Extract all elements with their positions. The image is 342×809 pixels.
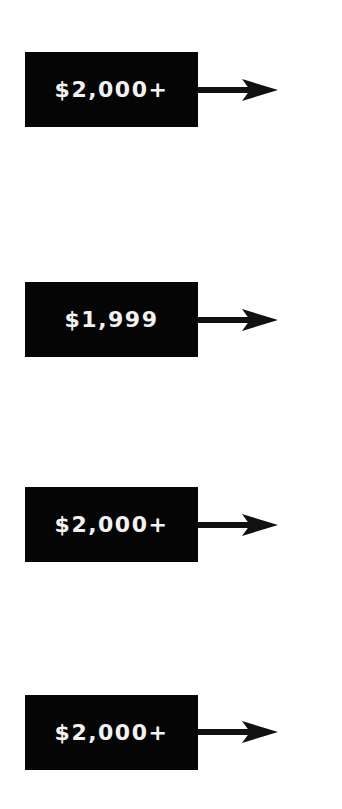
price-tag-1: $2,000+ bbox=[25, 52, 198, 127]
right-arrow-icon bbox=[198, 721, 278, 743]
price-tag-3: $2,000+ bbox=[25, 487, 198, 562]
right-arrow-icon bbox=[198, 309, 278, 331]
right-arrow-icon bbox=[198, 79, 278, 101]
price-label: $2,000+ bbox=[55, 720, 169, 745]
price-tag-4: $2,000+ bbox=[25, 695, 198, 770]
price-tag-2: $1,999 bbox=[25, 282, 198, 357]
price-label: $2,000+ bbox=[55, 512, 169, 537]
price-label: $2,000+ bbox=[55, 77, 169, 102]
price-label: $1,999 bbox=[65, 307, 159, 332]
right-arrow-icon bbox=[198, 514, 278, 536]
